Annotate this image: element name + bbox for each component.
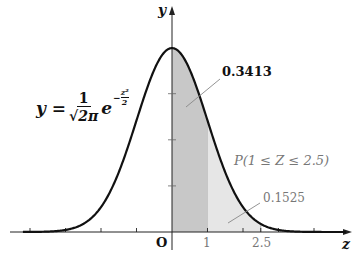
formula-denominator: √2π — [69, 107, 98, 125]
formula-e: e — [101, 98, 112, 118]
area2-probability-label: P(1 ≤ Z ≤ 2.5) — [234, 153, 329, 168]
area2-value-label: 0.1525 — [263, 191, 305, 205]
formula-fraction: 1 √2π — [69, 90, 98, 125]
exponent-sign: − — [113, 93, 121, 103]
tick-label-2-5: 2.5 — [252, 236, 271, 250]
y-axis-arrow-icon — [169, 6, 175, 15]
formula-exponent: − z² 2 — [113, 88, 129, 107]
density-formula: y = 1 √2π e − z² 2 — [36, 90, 129, 125]
shaded-region-2 — [208, 120, 261, 232]
formula-numerator: 1 — [77, 90, 91, 107]
area1-value-label: 0.3413 — [222, 64, 272, 79]
origin-label: O — [156, 235, 167, 250]
tick-label-1: 1 — [203, 236, 211, 250]
normal-distribution-chart — [0, 0, 358, 265]
exponent-denominator: 2 — [122, 98, 128, 107]
formula-lhs: y = — [36, 98, 66, 118]
z-axis-label: z — [342, 236, 350, 252]
exponent-fraction: z² 2 — [121, 88, 129, 107]
shaded-region-1 — [172, 48, 208, 232]
y-axis-label: y — [158, 2, 166, 18]
